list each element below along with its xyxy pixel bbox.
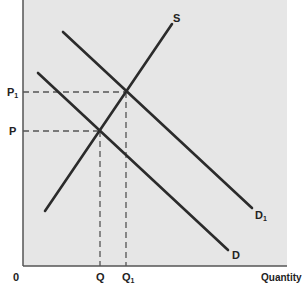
quantity-q-label: Q — [96, 271, 105, 283]
supply-label: S — [173, 12, 180, 24]
demand-label: D — [232, 249, 240, 261]
x-axis-label: Quantity — [261, 272, 302, 283]
origin-label: 0 — [13, 271, 19, 283]
plot-background — [23, 0, 287, 266]
quantity-q1-label: Q1 — [122, 271, 135, 284]
price-p-label: P — [9, 125, 16, 137]
supply-demand-diagram: S D D1 P1 P 0 Q Q1 Quantity — [0, 0, 303, 295]
price-p1-label: P1 — [7, 86, 18, 99]
